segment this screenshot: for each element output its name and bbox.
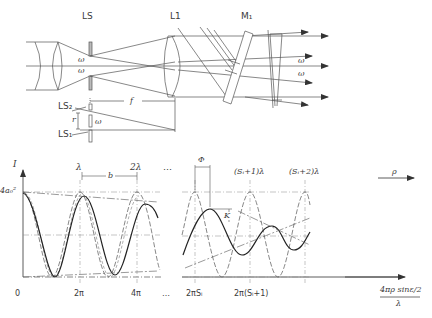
label-f: f (130, 97, 133, 105)
label-omega-3: ω (298, 57, 305, 65)
marker-si-plus-2: (Sᵢ+2)λ (289, 168, 319, 176)
label-omega-2: ω (78, 67, 85, 75)
x-tick-0: 0 (15, 290, 20, 298)
label-rho: ρ (392, 168, 397, 176)
marker-si-plus-1: (Sᵢ+1)λ (234, 168, 264, 176)
intensity-plot (23, 165, 420, 297)
label-omega-4: ω (298, 70, 305, 78)
x-tick-4pi: 4π (131, 290, 141, 298)
x-tick-2pi: 2π (74, 290, 84, 298)
diagram-canvas (0, 0, 432, 318)
label-r: r (72, 116, 76, 124)
label-l1: L1 (170, 12, 181, 21)
label-m1: M₁ (241, 12, 252, 21)
label-ls2: LS₂ (58, 102, 72, 111)
label-omega-5: ω (95, 118, 102, 126)
x-tick-ellipsis: … (162, 290, 170, 298)
reference-fringes-right (182, 192, 310, 277)
marker-ellipsis: … (163, 163, 172, 172)
x-label-denominator: λ (396, 300, 401, 308)
y-top-label: 4a₀² (0, 187, 16, 195)
measured-fringes-right (183, 209, 310, 255)
optical-setup (26, 27, 328, 142)
x-label-numerator: 4πρ sinε/2 (380, 286, 422, 294)
y-axis-label: I (13, 160, 17, 169)
slit-ls1 (89, 130, 92, 142)
output-lens (268, 30, 282, 108)
marker-2lambda: 2λ (130, 163, 141, 172)
label-phi: Φ (198, 156, 205, 164)
label-ls1: LS₁ (58, 130, 72, 139)
label-b: b (106, 172, 115, 180)
x-tick-2pi-si: 2πSᵢ (186, 290, 202, 298)
label-k: K (224, 212, 230, 220)
aperture-ls (89, 42, 92, 56)
label-ls: LS (82, 12, 93, 21)
x-tick-2pi-si-plus-1: 2π(Sᵢ+1) (234, 290, 268, 298)
slit-ls2 (89, 104, 92, 110)
lens-l1 (164, 36, 180, 97)
mirror-m1 (223, 31, 253, 104)
marker-lambda: λ (76, 163, 82, 172)
label-omega-1: ω (78, 56, 85, 64)
